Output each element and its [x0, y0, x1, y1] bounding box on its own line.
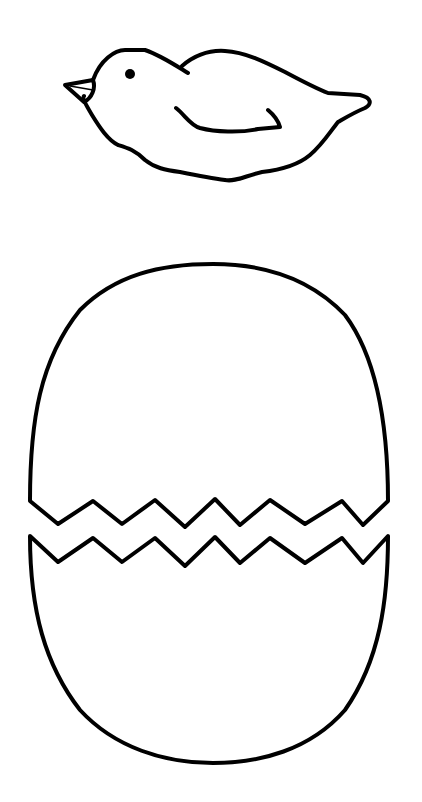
chick-beak	[65, 80, 94, 102]
egg-bottom-shell	[30, 536, 388, 763]
chick-figure	[65, 50, 370, 180]
egg-top-shell	[30, 264, 388, 527]
chick-eye	[125, 69, 135, 79]
chick-wing	[176, 108, 280, 132]
chick-beak-line	[70, 86, 93, 90]
coloring-page-canvas	[0, 0, 422, 802]
chick-body-outline	[83, 50, 369, 180]
